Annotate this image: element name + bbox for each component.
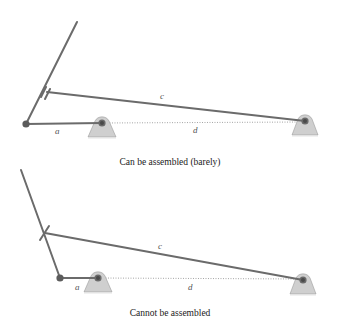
rocker-link: [26, 22, 77, 124]
link-c: [45, 233, 303, 280]
label-c: c: [158, 241, 162, 251]
rocker-link: [21, 170, 60, 278]
ground-line-d: [98, 278, 303, 279]
caption-bottom: Cannot be assembled: [130, 308, 211, 318]
label-c: c: [160, 91, 164, 101]
linkage-diagrams: a c d Can be assembled (barely): [0, 0, 341, 329]
label-d: d: [193, 125, 198, 135]
label-a: a: [55, 126, 60, 136]
ground-line-d: [102, 122, 305, 123]
link-c: [47, 92, 305, 121]
diagram-bottom: a c d Cannot be assembled: [21, 170, 316, 318]
diagram-top: a c d Can be assembled (barely): [22, 22, 318, 168]
caption-top: Can be assembled (barely): [119, 157, 220, 168]
label-d: d: [188, 282, 193, 292]
link-a: [26, 123, 102, 124]
joint-crank-end: [22, 120, 29, 127]
label-a: a: [75, 282, 80, 292]
joint-crank-end: [56, 274, 63, 281]
